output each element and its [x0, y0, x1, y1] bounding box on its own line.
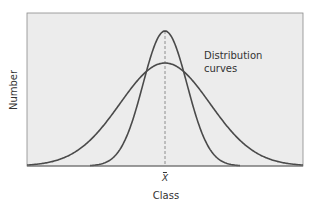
x-axis-label: Class: [153, 190, 179, 202]
chart-plot: [0, 0, 313, 210]
y-axis-label: Number: [8, 70, 20, 110]
annotation-line-2: curves: [204, 62, 262, 75]
curves-annotation: Distribution curves: [204, 49, 262, 75]
mean-symbol: X: [162, 173, 168, 183]
mean-tick-label: X: [162, 172, 168, 184]
annotation-line-1: Distribution: [204, 49, 262, 62]
